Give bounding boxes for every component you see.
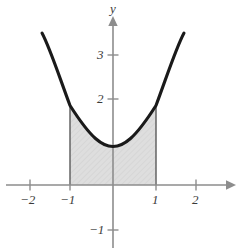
x-tick-label-plus2: 2	[192, 193, 199, 206]
y-axis-arrowhead	[108, 16, 117, 26]
plot-canvas	[0, 0, 240, 252]
x-tick-label-minus2: −2	[20, 193, 35, 206]
y-tick-label-3: 3	[97, 48, 104, 61]
y-tick-label-2: 2	[97, 92, 104, 105]
y-tick-label-minus1: −1	[89, 223, 104, 236]
x-tick-label-plus1: 1	[152, 193, 159, 206]
x-axis-arrowhead	[226, 180, 236, 190]
parabola-area-figure: y −2 −1 1 2 3 2 −1	[0, 0, 240, 252]
x-tick-label-minus1: −1	[60, 193, 75, 206]
y-axis-label: y	[110, 2, 116, 15]
